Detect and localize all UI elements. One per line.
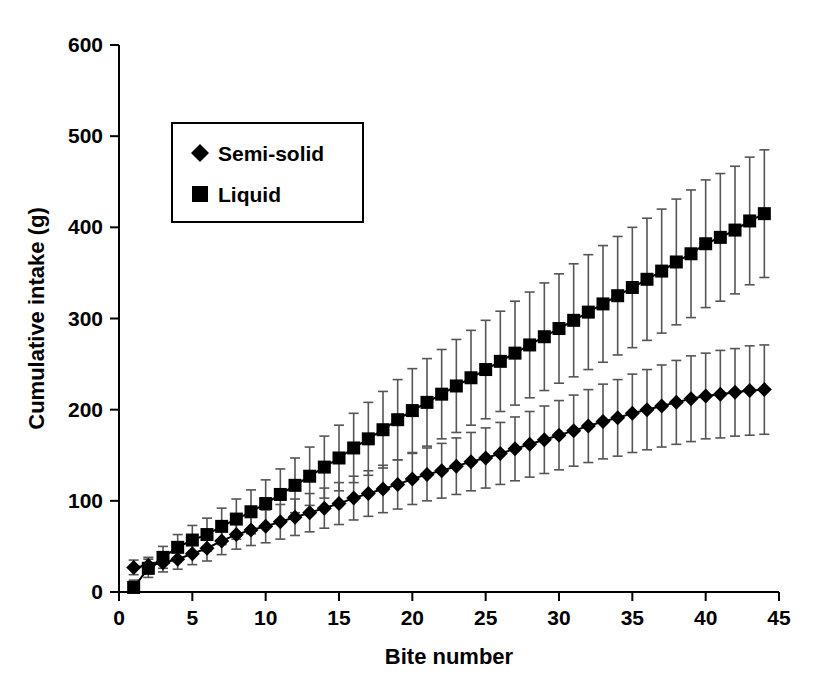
data-point-square xyxy=(641,273,654,286)
x-tick-label: 10 xyxy=(254,606,277,629)
data-point-square xyxy=(567,314,580,327)
data-point-square xyxy=(142,562,155,575)
y-tick-label: 500 xyxy=(68,124,103,147)
data-point-diamond xyxy=(200,541,215,556)
data-point-square xyxy=(303,470,316,483)
x-tick-label: 5 xyxy=(186,606,198,629)
data-point-square xyxy=(509,347,522,360)
data-point-square xyxy=(450,379,463,392)
data-point-diamond xyxy=(434,463,449,478)
data-point-square xyxy=(259,497,272,510)
y-axis-title: Cumulative intake (g) xyxy=(24,207,49,429)
data-point-diamond xyxy=(420,467,435,482)
x-tick-label: 45 xyxy=(767,606,791,629)
data-point-square xyxy=(670,255,683,268)
data-point-diamond xyxy=(654,399,669,414)
y-tick-label: 600 xyxy=(68,33,103,56)
data-point-diamond xyxy=(493,446,508,461)
data-point-square xyxy=(318,461,331,474)
data-point-square xyxy=(685,247,698,260)
data-point-diamond xyxy=(478,450,493,465)
data-point-square xyxy=(201,528,214,541)
data-point-diamond xyxy=(566,423,581,438)
data-point-diamond xyxy=(229,527,244,542)
data-point-square xyxy=(245,505,258,518)
data-point-square xyxy=(406,404,419,417)
x-tick-label: 25 xyxy=(474,606,498,629)
data-point-diamond xyxy=(170,552,185,567)
data-point-square xyxy=(377,423,390,436)
x-tick-label: 40 xyxy=(694,606,717,629)
data-point-diamond xyxy=(464,454,479,469)
y-tick-label: 100 xyxy=(68,489,103,512)
data-point-diamond xyxy=(302,505,317,520)
data-point-diamond xyxy=(552,428,567,443)
series-line-liquid xyxy=(134,214,765,588)
data-point-square xyxy=(347,441,360,454)
data-point-diamond xyxy=(405,471,420,486)
data-point-diamond xyxy=(244,523,259,538)
data-point-diamond xyxy=(317,501,332,516)
data-point-diamond xyxy=(258,519,273,534)
data-point-square xyxy=(699,237,712,250)
data-point-square xyxy=(611,289,624,302)
data-point-square xyxy=(421,396,434,409)
legend-label-liquid: Liquid xyxy=(218,183,281,206)
data-point-diamond xyxy=(625,406,640,421)
data-point-diamond xyxy=(698,388,713,403)
data-point-diamond xyxy=(610,410,625,425)
data-point-diamond xyxy=(684,391,699,406)
data-point-square xyxy=(743,214,756,227)
cumulative-intake-chart: 0100200300400500600051015202530354045Bit… xyxy=(0,0,830,689)
data-point-square xyxy=(714,231,727,244)
data-point-square xyxy=(553,322,566,335)
data-point-square xyxy=(171,541,184,554)
x-tick-label: 35 xyxy=(621,606,645,629)
data-point-square xyxy=(655,265,668,278)
data-point-square xyxy=(289,479,302,492)
data-point-square xyxy=(465,371,478,384)
data-point-square xyxy=(494,355,507,368)
data-point-diamond xyxy=(508,441,523,456)
data-point-diamond xyxy=(742,383,757,398)
x-tick-label: 20 xyxy=(401,606,424,629)
data-point-square xyxy=(538,330,551,343)
data-point-diamond xyxy=(376,481,391,496)
data-point-diamond xyxy=(728,385,743,400)
data-point-square xyxy=(230,513,243,526)
data-point-square xyxy=(274,488,287,501)
data-point-square xyxy=(523,338,536,351)
data-point-diamond xyxy=(669,395,684,410)
y-tick-label: 300 xyxy=(68,307,103,330)
legend-label-semi-solid: Semi-solid xyxy=(218,142,324,165)
legend-box xyxy=(172,123,363,222)
data-point-diamond xyxy=(522,437,537,452)
data-point-square xyxy=(479,363,492,376)
data-point-diamond xyxy=(640,402,655,417)
data-point-diamond xyxy=(214,533,229,548)
data-point-square xyxy=(333,451,346,464)
data-point-square xyxy=(626,281,639,294)
data-point-square xyxy=(391,413,404,426)
data-point-diamond xyxy=(185,546,200,561)
data-point-square xyxy=(215,520,228,533)
y-tick-label: 400 xyxy=(68,215,103,238)
data-point-square xyxy=(127,581,140,594)
x-tick-label: 30 xyxy=(547,606,570,629)
data-point-diamond xyxy=(288,510,303,525)
data-point-diamond xyxy=(713,387,728,402)
data-point-square xyxy=(582,306,595,319)
data-point-square xyxy=(435,388,448,401)
x-tick-label: 15 xyxy=(327,606,351,629)
legend-marker-square xyxy=(192,186,208,202)
data-point-diamond xyxy=(390,477,405,492)
data-point-diamond xyxy=(273,514,288,529)
y-tick-label: 200 xyxy=(68,398,103,421)
x-axis-title: Bite number xyxy=(385,644,514,669)
data-point-diamond xyxy=(449,459,464,474)
data-point-diamond xyxy=(332,496,347,511)
data-point-square xyxy=(362,432,375,445)
data-point-square xyxy=(157,551,170,564)
data-point-diamond xyxy=(537,432,552,447)
data-point-diamond xyxy=(581,419,596,434)
